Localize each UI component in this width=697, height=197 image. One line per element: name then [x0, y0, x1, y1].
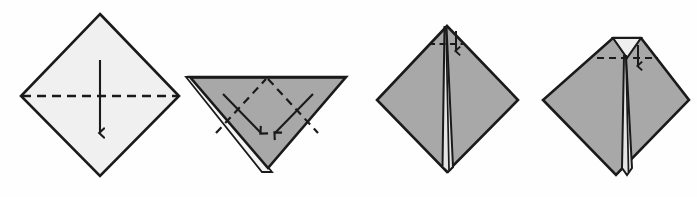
origami-instruction-diagram: Step 1 Step 2 Step 3 Step 4: [0, 0, 697, 197]
diagram-canvas: [0, 0, 697, 197]
